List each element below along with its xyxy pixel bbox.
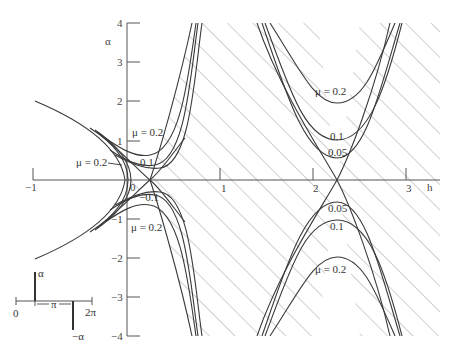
label-right-lower-mu: μ = 0.2 (315, 263, 346, 275)
label-right-lower-01: 0.1 (330, 220, 344, 232)
svg-text:1: 1 (221, 182, 227, 194)
svg-text:2: 2 (313, 182, 319, 194)
svg-text:−2: −2 (111, 252, 123, 264)
svg-text:−α: −α (72, 330, 84, 342)
label-left-arrow-mu: μ = 0.2 (76, 156, 107, 168)
inset-waveform: α −α 0 π 2π (13, 267, 97, 342)
label-right-upper-01: 0.1 (330, 130, 344, 142)
label-right-upper-005: 0.05 (328, 146, 348, 158)
svg-text:−1: −1 (25, 181, 37, 193)
svg-text:2: 2 (117, 95, 123, 107)
svg-text:3: 3 (117, 56, 123, 68)
svg-text:α: α (38, 267, 44, 279)
label-right-lower-005: 0.05 (328, 202, 348, 214)
svg-text:3: 3 (406, 182, 412, 194)
svg-text:−3: −3 (111, 291, 123, 303)
label-left-upper-mu: μ = 0.2 (132, 126, 163, 138)
svg-text:−4: −4 (111, 330, 123, 342)
svg-text:2π: 2π (85, 306, 97, 318)
label-left-lower-01: −0.1 (139, 191, 159, 203)
label-left-upper-01: 0.1 (140, 156, 154, 168)
label-right-upper-mu: μ = 0.2 (315, 85, 346, 97)
svg-text:π: π (51, 298, 57, 310)
svg-text:4: 4 (117, 17, 123, 29)
label-left-lower-mu: μ = 0.2 (131, 221, 162, 233)
h-axis-label: h (427, 181, 433, 193)
svg-text:1: 1 (117, 135, 123, 147)
svg-text:0: 0 (13, 307, 19, 319)
stability-diagram: 4 3 2 1 −1 −2 −3 −4 −1 0 1 2 3 h α (0, 0, 453, 351)
alpha-axis-label: α (105, 35, 111, 47)
